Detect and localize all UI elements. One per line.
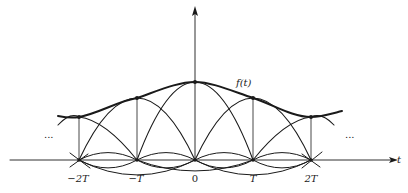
tick-label-2T: 2T [303,173,318,184]
tick-label-zero: 0 [192,173,198,184]
interpolation-side-lobes [70,152,322,175]
interpolation-main-lobes [21,82,334,160]
tick-label-minus-2T: −2T [67,173,90,184]
ellipsis-right: ... [345,129,355,140]
t-axis-label: t [397,154,402,165]
function-label: f(t) [235,77,252,88]
sampling-reconstruction-diagram: f(t) t ... ... −2T −T 0 T 2T [0,0,408,193]
envelope-curve-f-of-t [58,82,342,118]
ellipsis-left: ... [44,129,54,140]
tick-label-minus-T: −T [128,173,144,184]
